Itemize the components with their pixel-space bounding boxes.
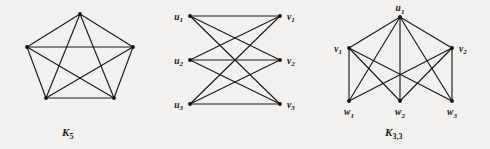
graph-vertex <box>188 102 192 106</box>
graph-edge <box>80 14 114 98</box>
graph-edge <box>349 48 400 101</box>
caption-base-k5: K <box>62 126 70 138</box>
graph-panel-k33: u1u2u3v1v2v3 K3,3 <box>163 0 310 149</box>
graph-vertex <box>278 58 282 62</box>
caption-subscript-k5: 5 <box>70 132 74 141</box>
graph-drawing-k5 <box>0 0 163 149</box>
graph-vertex <box>398 99 402 103</box>
graph-edge <box>46 14 80 98</box>
graph-panel-k5: K5 <box>0 0 163 149</box>
graph-vertex <box>112 96 116 100</box>
graph-vertex <box>44 96 48 100</box>
graph-panel-k321: u1v1v2w1w2w3 K3,2,1 <box>310 0 490 149</box>
vertex-label-w3: w3 <box>447 107 457 120</box>
graph-vertex <box>188 58 192 62</box>
graph-edge <box>27 47 46 98</box>
figure-sheet: K5 u1u2u3v1v2v3 K3,3 u1v1v2w1w2w3 K3,2,1 <box>0 0 490 149</box>
graph-edge <box>80 14 133 47</box>
graph-vertex <box>78 12 82 16</box>
vertex-label-v1: v1 <box>287 12 295 25</box>
graph-vertex <box>278 14 282 18</box>
graph-vertex <box>347 46 351 50</box>
graph-edge <box>46 47 133 98</box>
graph-edge <box>27 14 80 47</box>
vertex-label-u3: u3 <box>174 100 183 113</box>
graph-edge <box>114 47 133 98</box>
graph-vertex <box>347 99 351 103</box>
graph-vertex <box>278 102 282 106</box>
graph-vertex <box>398 15 402 19</box>
vertex-label-w1: w1 <box>344 107 354 120</box>
graph-drawing-k33: u1u2u3v1v2v3 <box>163 0 310 149</box>
vertex-label-v2: v2 <box>459 44 467 57</box>
vertex-label-u1: u1 <box>174 12 183 25</box>
graph-edge <box>27 47 114 98</box>
graph-edge <box>349 17 400 48</box>
vertex-label-w2: w2 <box>395 107 405 120</box>
graph-vertex <box>450 46 454 50</box>
figure-caption-k5: K5 <box>62 126 74 141</box>
vertex-label-v3: v3 <box>287 100 295 113</box>
graph-vertex <box>25 45 29 49</box>
graph-edge <box>400 17 452 101</box>
graph-drawing-k321: u1v1v2w1w2w3 <box>310 0 490 149</box>
graph-vertex <box>188 14 192 18</box>
graph-vertex <box>450 99 454 103</box>
graph-edge <box>400 17 452 48</box>
vertex-label-u2: u2 <box>174 56 183 69</box>
graph-vertex <box>131 45 135 49</box>
vertex-label-v1: v1 <box>334 44 342 57</box>
graph-edge <box>400 48 452 101</box>
vertex-label-v2: v2 <box>287 56 295 69</box>
vertex-label-u1: u1 <box>396 3 405 16</box>
